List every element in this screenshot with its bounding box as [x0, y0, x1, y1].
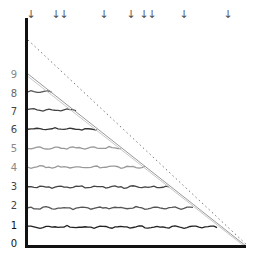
down-arrow-icon: ↓ — [147, 9, 157, 20]
y-label-6: 6 — [7, 125, 21, 135]
level-line-1 — [28, 226, 217, 229]
y-label-4: 4 — [7, 163, 21, 173]
down-arrow-icon: ↓ — [26, 9, 36, 20]
down-arrow-icon: ↓ — [99, 9, 109, 20]
dotted-diagonal — [28, 40, 248, 246]
level-line-3 — [28, 186, 169, 189]
y-label-9: 9 — [7, 70, 21, 80]
diagonal-inner — [28, 77, 244, 247]
down-arrow-icon: ↓ — [126, 9, 136, 20]
y-label-7: 7 — [7, 107, 21, 117]
level-line-2 — [28, 207, 193, 210]
down-arrow-icon: ↓ — [223, 9, 233, 20]
level-lines — [28, 91, 217, 229]
diagonal-outer — [28, 74, 246, 246]
diagram-canvas: 0123456789 ↓↓↓↓↓↓↓↓↓ — [0, 0, 259, 262]
down-arrow-icon: ↓ — [179, 9, 189, 20]
y-label-8: 8 — [7, 89, 21, 99]
level-line-4 — [28, 166, 145, 169]
down-arrow-icon: ↓ — [59, 9, 69, 20]
y-label-5: 5 — [7, 144, 21, 154]
y-label-1: 1 — [7, 221, 21, 231]
diagram-svg — [0, 0, 259, 262]
level-line-6 — [28, 128, 97, 131]
y-label-3: 3 — [7, 182, 21, 192]
y-label-2: 2 — [7, 201, 21, 211]
level-line-5 — [28, 147, 121, 150]
y-label-0: 0 — [7, 239, 21, 249]
